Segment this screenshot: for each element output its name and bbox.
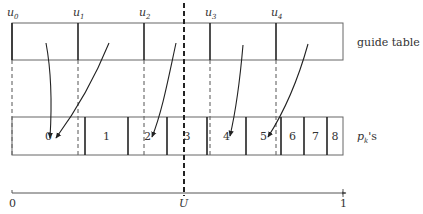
pk-cell-6: 6 bbox=[289, 130, 296, 143]
pk-cell-2: 2 bbox=[144, 130, 151, 143]
pk-row-label: pk's bbox=[357, 130, 377, 145]
guide-table: u0u1u2u3u4 guide table bbox=[7, 6, 420, 60]
unit-axis: 0 U 1 bbox=[9, 189, 347, 210]
arrow-u4-to-5 bbox=[268, 44, 308, 137]
guide-table-marker-labels: u0u1u2u3u4 bbox=[7, 6, 283, 21]
marker-label-u3: u3 bbox=[205, 6, 217, 21]
axis-label-end: 1 bbox=[340, 197, 347, 210]
arrow-u0-to-0 bbox=[46, 43, 51, 138]
marker-label-u2: u2 bbox=[139, 6, 151, 21]
pk-cell-8: 8 bbox=[332, 130, 339, 143]
pk-cell-5: 5 bbox=[260, 130, 267, 143]
guide-table-diagram: u0u1u2u3u4 guide table 012345678 pk's 0 … bbox=[0, 0, 423, 214]
guide-table-label: guide table bbox=[357, 36, 420, 49]
marker-label-u0: u0 bbox=[7, 6, 19, 21]
arrow-u2-to-2 bbox=[152, 43, 176, 137]
axis-label-u: U bbox=[179, 197, 189, 210]
marker-label-u4: u4 bbox=[271, 6, 283, 21]
arrow-u3-to-4 bbox=[230, 45, 243, 136]
guide-table-dividers bbox=[12, 23, 276, 60]
pk-cell-7: 7 bbox=[312, 130, 319, 143]
guide-table-box bbox=[12, 23, 343, 60]
arrow-u1-to-0 bbox=[56, 43, 109, 138]
marker-label-u1: u1 bbox=[73, 6, 85, 21]
axis-label-start: 0 bbox=[9, 197, 16, 210]
pk-row-cell-labels: 012345678 bbox=[45, 130, 339, 143]
pk-cell-0: 0 bbox=[45, 130, 52, 143]
pk-cell-4: 4 bbox=[223, 130, 230, 143]
pk-cell-1: 1 bbox=[103, 130, 110, 143]
